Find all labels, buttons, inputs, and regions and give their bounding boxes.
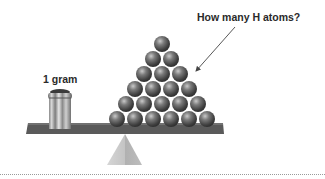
one-gram-weight xyxy=(48,89,72,129)
weight-label: 1 gram xyxy=(43,73,77,85)
fulcrum-triangle xyxy=(107,134,142,165)
pointer-arrow xyxy=(196,27,235,71)
dotted-divider xyxy=(0,174,325,175)
hydrogen-atom-pyramid xyxy=(109,36,215,127)
balance-diagram xyxy=(0,0,325,179)
question-label: How many H atoms? xyxy=(197,11,300,23)
